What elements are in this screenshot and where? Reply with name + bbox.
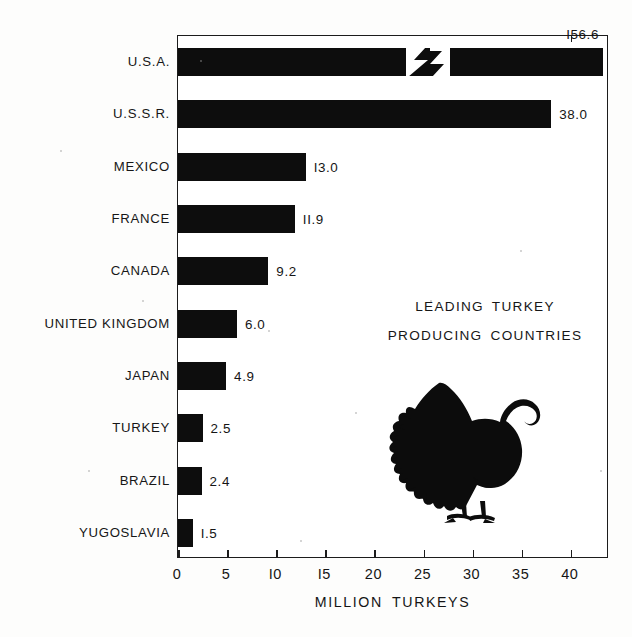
- category-label: FRANCE: [0, 211, 170, 226]
- chart-title-line-2: PRODUCING COUNTRIES: [360, 321, 610, 350]
- bar: [178, 467, 202, 495]
- x-axis-tick-label: 0: [173, 566, 182, 582]
- scan-speckle: [268, 330, 270, 332]
- x-axis-tick-label: 25: [414, 566, 431, 582]
- x-axis-tick-label: 35: [512, 566, 529, 582]
- bar: [178, 310, 237, 338]
- scan-speckle: [520, 250, 522, 252]
- category-label: U.S.S.R.: [0, 106, 170, 121]
- bar-value-label: II.9: [303, 212, 324, 227]
- bar-value-label: 2.5: [211, 421, 231, 436]
- x-axis-tick: [522, 550, 524, 557]
- turkey-silhouette-icon: [385, 365, 550, 540]
- bar: [178, 100, 551, 128]
- bar-value-label: 9.2: [276, 264, 296, 279]
- x-axis-tick-top: [571, 36, 573, 42]
- category-label: MEXICO: [0, 158, 170, 173]
- x-axis-tick: [276, 550, 278, 557]
- category-label: U.S.A.: [0, 54, 170, 69]
- bar-value-label: I3.0: [314, 159, 339, 174]
- x-axis-tick-label: 20: [365, 566, 382, 582]
- bar-value-label: 6.0: [245, 316, 265, 331]
- x-axis-tick: [374, 550, 376, 557]
- category-label: TURKEY: [0, 420, 170, 435]
- x-axis-tick: [473, 550, 475, 557]
- scan-speckle: [355, 412, 357, 414]
- x-axis-tick-label: 5: [222, 566, 231, 582]
- x-axis-tick: [227, 550, 229, 557]
- bar-value-label: 2.4: [210, 473, 230, 488]
- category-label-column: U.S.A.U.S.S.R.MEXICOFRANCECANADAUNITED K…: [0, 35, 170, 558]
- bar-value-label: 4.9: [234, 368, 254, 383]
- axis-break-zigzag: [406, 47, 450, 77]
- bar: [178, 519, 193, 547]
- x-axis-tick: [424, 550, 426, 557]
- scan-speckle: [300, 540, 302, 542]
- x-axis-title: MILLION TURKEYS: [177, 594, 608, 610]
- x-axis-tick: [178, 550, 180, 557]
- x-axis-tick-label: I0: [269, 566, 282, 582]
- category-label: JAPAN: [0, 367, 170, 382]
- scan-speckle: [200, 60, 202, 62]
- scan-speckle: [600, 470, 602, 472]
- category-label: CANADA: [0, 263, 170, 278]
- category-label: YUGOSLAVIA: [0, 524, 170, 539]
- x-axis-tick-label: 40: [561, 566, 578, 582]
- scan-speckle: [430, 300, 432, 302]
- scan-speckle: [142, 300, 144, 302]
- chart-title: LEADING TURKEY PRODUCING COUNTRIES: [360, 292, 610, 350]
- bar: [178, 205, 295, 233]
- category-label: BRAZIL: [0, 472, 170, 487]
- bar-chart: U.S.A.U.S.S.R.MEXICOFRANCECANADAUNITED K…: [0, 0, 632, 637]
- bar: [178, 48, 603, 76]
- x-axis-tick-label: I5: [318, 566, 331, 582]
- chart-title-line-1: LEADING TURKEY: [360, 292, 610, 321]
- scan-speckle: [60, 150, 62, 152]
- bar: [178, 362, 226, 390]
- bar-value-label: I.5: [201, 525, 218, 540]
- scan-speckle: [88, 470, 90, 472]
- x-axis-tick: [325, 550, 327, 557]
- bar: [178, 414, 203, 442]
- bar: [178, 153, 306, 181]
- x-axis-tick: [571, 550, 573, 557]
- bar: [178, 257, 268, 285]
- x-axis-tick-label: 30: [463, 566, 480, 582]
- bar-value-label: 38.0: [559, 107, 587, 122]
- category-label: UNITED KINGDOM: [0, 315, 170, 330]
